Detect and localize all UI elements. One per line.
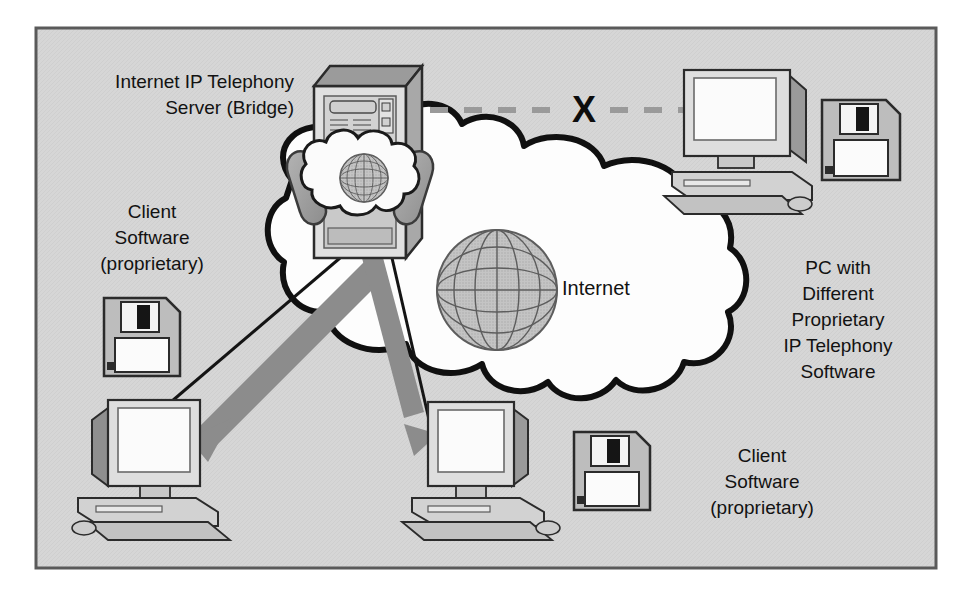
server-label-line-2: Server (Bridge) bbox=[165, 97, 294, 118]
globe-internet bbox=[437, 230, 557, 350]
pc-right-mouse bbox=[788, 197, 812, 211]
diagram-stage: Internet X bbox=[0, 0, 972, 597]
pc-right-line-1: PC with bbox=[805, 257, 870, 278]
server-top bbox=[314, 66, 422, 86]
server-label-line-1: Internet IP Telephony bbox=[115, 71, 294, 92]
pc-bl-screen bbox=[118, 408, 190, 472]
pc-right-keyboard bbox=[664, 196, 802, 214]
floppy-disk-left bbox=[104, 298, 180, 376]
floppy-b-notch bbox=[577, 496, 585, 504]
pc-bc-mouse bbox=[536, 521, 560, 535]
client-left-line-3: (proprietary) bbox=[100, 253, 203, 274]
floppy-tr-notch bbox=[825, 166, 833, 174]
floppy-l-label bbox=[115, 338, 169, 372]
client-bottom-line-3: (proprietary) bbox=[710, 497, 813, 518]
floppy-b-shutter-slot bbox=[607, 439, 620, 463]
client-bottom-line-2: Software bbox=[725, 471, 800, 492]
server-cloud-badge bbox=[301, 130, 419, 215]
pc-right-monitor-side bbox=[790, 76, 806, 162]
pc-bl-monitor-stand bbox=[140, 486, 170, 498]
server-lower-slot bbox=[328, 228, 392, 244]
client-bottom-line-1: Client bbox=[738, 445, 787, 466]
pc-bc-keyboard bbox=[402, 522, 552, 540]
floppy-tr-label bbox=[834, 140, 888, 176]
pc-bl-monitor-side bbox=[92, 408, 108, 486]
pc-bc-screen bbox=[438, 410, 504, 472]
network-diagram: Internet X bbox=[0, 0, 972, 597]
floppy-l-notch bbox=[107, 362, 115, 370]
server-button-2 bbox=[382, 118, 390, 126]
pc-right-different-software bbox=[664, 70, 812, 214]
pc-bc-floppy-slot bbox=[428, 506, 490, 512]
internet-label: Internet bbox=[562, 277, 630, 299]
pc-right-line-2: Different bbox=[802, 283, 874, 304]
floppy-l-shutter-slot bbox=[137, 305, 150, 329]
pc-right-line-4: IP Telephony bbox=[783, 335, 893, 356]
pc-right-screen bbox=[694, 78, 776, 140]
floppy-tr-shutter-slot bbox=[856, 107, 869, 131]
pc-right-line-3: Proprietary bbox=[792, 309, 885, 330]
pc-right-monitor-stand bbox=[718, 156, 754, 168]
server-drive-bay bbox=[330, 101, 376, 113]
client-left-line-1: Client bbox=[128, 201, 177, 222]
floppy-disk-top-right bbox=[822, 100, 900, 180]
server-button-1 bbox=[382, 103, 390, 111]
pc-right-line-5: Software bbox=[801, 361, 876, 382]
blocked-x-marker: X bbox=[572, 89, 596, 130]
pc-right-floppy-slot bbox=[684, 180, 750, 186]
floppy-b-label bbox=[585, 472, 639, 506]
pc-bc-monitor-stand bbox=[456, 486, 486, 498]
floppy-disk-bottom bbox=[574, 432, 650, 510]
pc-bl-keyboard bbox=[86, 522, 230, 540]
pc-bl-mouse bbox=[72, 521, 96, 535]
client-left-line-2: Software bbox=[115, 227, 190, 248]
pc-bl-floppy-slot bbox=[96, 506, 162, 512]
